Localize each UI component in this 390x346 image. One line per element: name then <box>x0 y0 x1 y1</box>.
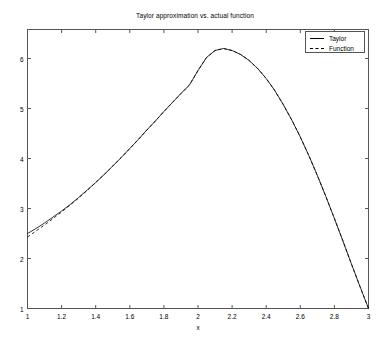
x-tick-label: 3 <box>367 313 371 320</box>
x-tick-label: 1 <box>26 313 30 320</box>
y-tick-label: 6 <box>6 55 24 62</box>
y-tick-label: 4 <box>6 155 24 162</box>
y-tick-label: 5 <box>6 105 24 112</box>
x-axis-label: x <box>196 324 199 331</box>
legend-item: Taylor <box>308 33 362 43</box>
x-tick-label: 1.6 <box>125 313 134 320</box>
x-tick-label: 2 <box>196 313 200 320</box>
legend-line-solid-icon <box>308 34 326 42</box>
legend: Taylor Function <box>305 31 365 53</box>
x-tick-label: 2.8 <box>330 313 339 320</box>
x-tick-label: 2.4 <box>262 313 271 320</box>
x-tick-label: 2.6 <box>296 313 305 320</box>
axes-frame <box>28 30 369 309</box>
y-tick-label: 3 <box>6 205 24 212</box>
y-tick-label: 1 <box>6 305 24 312</box>
y-tick-label: 2 <box>6 255 24 262</box>
axis-ticks <box>28 30 369 309</box>
legend-item-label: Taylor <box>326 35 346 42</box>
x-tick-label: 1.4 <box>91 313 100 320</box>
x-tick-label: 2.2 <box>228 313 237 320</box>
legend-line-dashed-icon <box>308 44 326 52</box>
legend-item: Function <box>308 43 362 53</box>
figure-canvas: Taylor approximation vs. actual function… <box>0 0 390 346</box>
data-series <box>28 49 369 309</box>
legend-item-label: Function <box>326 45 354 52</box>
x-tick-label: 1.8 <box>159 313 168 320</box>
x-tick-label: 1.2 <box>57 313 66 320</box>
